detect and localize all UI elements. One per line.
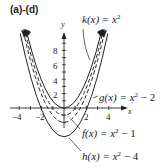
x-tick-label-neg2: −2: [35, 112, 45, 123]
leader-g: [93, 96, 98, 98]
y-tick-label-8: 8: [53, 46, 58, 57]
x-tick-label-2: 2: [84, 112, 89, 123]
x-axis-arrow-icon: [121, 106, 128, 111]
label-h: h(x) = x2 − 4: [82, 151, 138, 162]
y-tick-label-2: 2: [53, 90, 58, 101]
x-tick-label-4: 4: [106, 112, 111, 123]
label-g: g(x) = x2 − 2: [99, 92, 155, 103]
leader-k: [83, 29, 90, 60]
label-f: f(x) = x2 − 1: [82, 128, 136, 139]
y-tick-label-4: 4: [53, 76, 58, 87]
x-tick-label-neg4: −4: [12, 112, 22, 123]
y-axis-arrow-icon: [62, 32, 67, 39]
label-k: k(x) = x2: [82, 14, 120, 25]
y-axis-label: y: [61, 19, 65, 30]
plot-area: [0, 0, 164, 168]
leader-h: [69, 138, 81, 151]
y-tick-label-6: 6: [53, 61, 58, 72]
chart-figure: (a)-(d): [0, 0, 164, 168]
x-axis-label: x: [128, 106, 132, 117]
